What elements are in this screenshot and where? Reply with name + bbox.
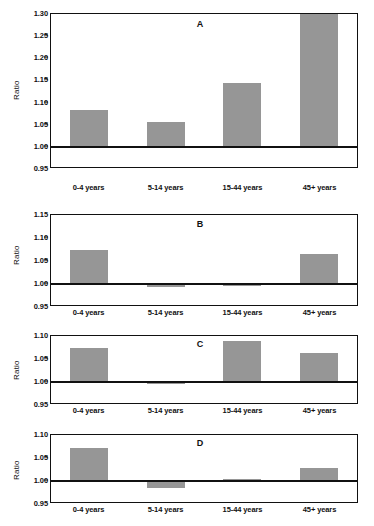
- bar: [70, 110, 108, 147]
- y-tick-mark: [44, 79, 48, 80]
- baseline-rule-d: [51, 480, 357, 482]
- plot-area-c: [50, 335, 358, 404]
- bar: [300, 14, 338, 147]
- y-tick-mark: [44, 145, 48, 146]
- bar-group-b: [51, 215, 357, 305]
- y-tick-mark: [44, 123, 48, 124]
- y-tick-mark: [44, 381, 48, 382]
- y-tick-mark: [44, 480, 48, 481]
- y-tick-label: 1.30: [34, 9, 48, 18]
- x-axis-label: 15-44 years: [204, 308, 281, 317]
- x-axis-labels-b: 0-4 years5-14 years15-44 years45+ years: [50, 308, 358, 317]
- bar: [147, 122, 185, 147]
- y-tick-label: 0.95: [34, 164, 48, 173]
- bar-group-d: [51, 435, 357, 502]
- y-tick-label: 0.95: [34, 400, 48, 409]
- bar: [70, 448, 108, 481]
- panel-d: Ratio 1.101.051.000.95 D 0-4 years5-14 y…: [0, 425, 374, 526]
- x-axis-label: 15-44 years: [204, 183, 281, 192]
- plot-area-b: [50, 214, 358, 306]
- bar: [70, 250, 108, 284]
- x-axis-label: 0-4 years: [50, 183, 127, 192]
- x-axis-label: 5-14 years: [127, 308, 204, 317]
- y-tick-mark: [44, 237, 48, 238]
- panel-title-b: B: [197, 219, 204, 229]
- x-axis-label: 15-44 years: [204, 505, 281, 514]
- x-axis-label: 15-44 years: [204, 406, 281, 415]
- baseline-rule-c: [51, 381, 357, 383]
- y-tick-label: 1.10: [34, 331, 48, 340]
- bar: [223, 83, 261, 147]
- x-axis-label: 0-4 years: [50, 505, 127, 514]
- bar: [147, 481, 185, 488]
- x-axis-label: 0-4 years: [50, 406, 127, 415]
- bar: [300, 353, 338, 382]
- y-axis-label-b: Ratio: [12, 245, 21, 265]
- x-axis-label: 45+ years: [281, 505, 358, 514]
- y-tick-label: 0.95: [34, 302, 48, 311]
- y-axis-label-a: Ratio: [12, 80, 21, 100]
- panel-title-c: C: [197, 339, 204, 349]
- baseline-rule-a: [51, 146, 357, 148]
- x-axis-label: 45+ years: [281, 308, 358, 317]
- plot-area-d: [50, 434, 358, 503]
- y-tick-mark: [44, 457, 48, 458]
- x-axis-label: 0-4 years: [50, 308, 127, 317]
- x-axis-labels-a: 0-4 years5-14 years15-44 years45+ years: [50, 183, 358, 192]
- panel-title-a: A: [197, 19, 204, 29]
- x-axis-labels-d: 0-4 years5-14 years15-44 years45+ years: [50, 505, 358, 514]
- y-tick-mark: [44, 260, 48, 261]
- y-tick-mark: [44, 283, 48, 284]
- panel-title-d: D: [197, 438, 204, 448]
- y-axis-label-d: Ratio: [12, 460, 21, 480]
- y-tick-label: 0.95: [34, 499, 48, 508]
- x-axis-labels-c: 0-4 years5-14 years15-44 years45+ years: [50, 406, 358, 415]
- bar: [223, 341, 261, 382]
- x-axis-label: 5-14 years: [127, 183, 204, 192]
- y-tick-label: 1.15: [34, 210, 48, 219]
- baseline-rule-b: [51, 283, 357, 285]
- bar-group-a: [51, 14, 357, 167]
- bar: [300, 254, 338, 284]
- y-axis-label-c: Ratio: [12, 360, 21, 380]
- x-axis-label: 45+ years: [281, 406, 358, 415]
- plot-area-a: [50, 13, 358, 168]
- y-tick-mark: [44, 35, 48, 36]
- bar: [70, 348, 108, 382]
- x-axis-label: 5-14 years: [127, 505, 204, 514]
- x-axis-label: 45+ years: [281, 183, 358, 192]
- y-tick-mark: [44, 358, 48, 359]
- figure-four-panel-ratio-bars: Ratio 1.301.251.201.151.101.051.000.95 A…: [0, 0, 374, 526]
- y-tick-mark: [44, 101, 48, 102]
- panel-a: Ratio 1.301.251.201.151.101.051.000.95 A…: [0, 0, 374, 200]
- panel-b: Ratio 1.151.101.051.000.95 B 0-4 years5-…: [0, 205, 374, 320]
- bar-group-c: [51, 336, 357, 403]
- x-axis-label: 5-14 years: [127, 406, 204, 415]
- y-tick-label: 1.10: [34, 430, 48, 439]
- panel-c: Ratio 1.101.051.000.95 C 0-4 years5-14 y…: [0, 325, 374, 430]
- y-tick-mark: [44, 57, 48, 58]
- bar: [300, 468, 338, 481]
